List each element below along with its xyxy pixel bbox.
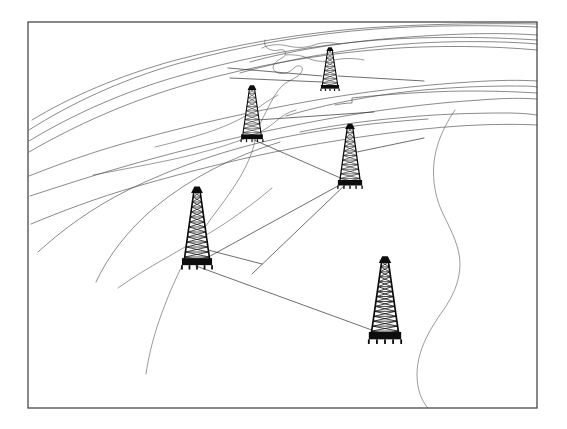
oil-field-illustration (0, 0, 567, 429)
derrick-support-leg (257, 139, 258, 142)
derrick-support-leg (376, 339, 378, 344)
derrick-support-leg (196, 265, 198, 269)
derrick-support-leg (181, 265, 183, 269)
derrick-support-leg (320, 89, 321, 91)
derrick-support-leg (337, 185, 338, 188)
derrick-support-leg (329, 89, 330, 91)
derrick-support-leg (338, 89, 339, 91)
derrick-support-leg (392, 339, 394, 344)
derrick-support-leg (211, 265, 213, 269)
derrick-base-platform (369, 332, 401, 339)
derrick-support-leg (325, 89, 326, 91)
derrick-base-platform (338, 180, 362, 186)
derrick-support-leg (240, 139, 241, 142)
derrick-support-leg (204, 265, 206, 269)
derrick-support-leg (384, 339, 386, 344)
derrick-support-leg (361, 185, 362, 188)
derrick-support-leg (262, 139, 263, 142)
derrick-support-leg (355, 185, 356, 188)
derrick-support-leg (246, 139, 247, 142)
canvas-background (0, 0, 567, 429)
derrick-support-leg (400, 339, 402, 344)
derrick-base-platform (182, 258, 212, 265)
derrick-support-leg (334, 89, 335, 91)
derrick-support-leg (343, 185, 344, 188)
derrick-support-leg (368, 339, 370, 344)
derrick-base-platform (241, 134, 263, 139)
derrick-support-leg (189, 265, 191, 269)
derrick-support-leg (251, 139, 252, 142)
derrick-base-platform (321, 85, 339, 89)
scene-canvas (0, 0, 567, 429)
derrick-support-leg (349, 185, 350, 188)
